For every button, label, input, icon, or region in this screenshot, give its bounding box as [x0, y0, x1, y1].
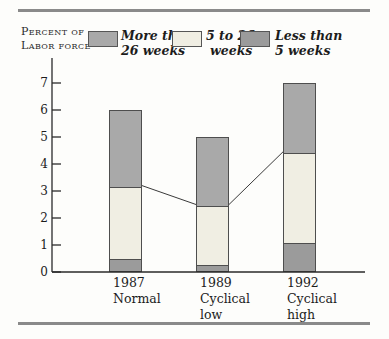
plot-area: 012345671987Normal1989Cyclicallow1992Cyc… — [0, 0, 389, 339]
bottom-rule — [18, 322, 370, 325]
x-label-line: Cyclical — [287, 291, 337, 307]
chart-page: Percent of Labor force More than 26 week… — [0, 0, 389, 339]
x-label-1992: 1992Cyclicalhigh — [287, 275, 337, 323]
x-label-1987: 1987Normal — [113, 275, 161, 307]
x-label-line: 1992 — [287, 275, 337, 291]
bar-segment-less-than-5-weeks — [284, 243, 315, 271]
y-tick-label-3: 3 — [20, 183, 48, 199]
bar-segment-less-than-5-weeks — [197, 265, 228, 271]
y-tick-label-0: 0 — [20, 264, 48, 280]
bar-1989 — [196, 137, 229, 272]
y-tick-label-4: 4 — [20, 156, 48, 172]
bar-segment-more-than-26-weeks — [197, 138, 228, 206]
connector-line-segment-2 — [229, 152, 283, 205]
bar-segment-more-than-26-weeks — [110, 111, 141, 187]
bar-segment-5-to-26-weeks — [197, 206, 228, 265]
x-label-1989: 1989Cyclicallow — [200, 275, 250, 323]
x-label-line: high — [287, 307, 337, 323]
bar-segment-5-to-26-weeks — [110, 187, 141, 260]
y-tick-label-6: 6 — [20, 102, 48, 118]
bar-segment-less-than-5-weeks — [110, 259, 141, 271]
bar-segment-more-than-26-weeks — [284, 84, 315, 153]
bar-1987 — [109, 110, 142, 272]
y-tick-label-5: 5 — [20, 129, 48, 145]
y-tick-label-1: 1 — [20, 237, 48, 253]
connector-line-segment-1 — [142, 186, 196, 205]
x-label-line: 1987 — [113, 275, 161, 291]
x-label-line: 1989 — [200, 275, 250, 291]
x-label-line: low — [200, 307, 250, 323]
bar-1992 — [283, 83, 316, 272]
y-tick-label-7: 7 — [20, 75, 48, 91]
x-label-line: Cyclical — [200, 291, 250, 307]
x-label-line: Normal — [113, 291, 161, 307]
bar-segment-5-to-26-weeks — [284, 153, 315, 243]
y-tick-label-2: 2 — [20, 210, 48, 226]
